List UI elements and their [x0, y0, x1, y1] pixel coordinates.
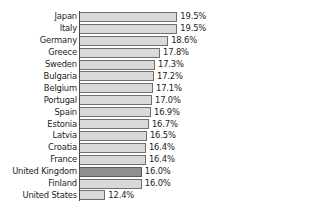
bar-greece: [80, 48, 160, 58]
value-label-italy: 19.5%: [180, 24, 206, 32]
value-label-finland: 16.0%: [145, 179, 171, 187]
bar-united-states: [80, 190, 105, 200]
value-label-estonia: 16.7%: [152, 120, 178, 128]
value-label-belgium: 17.1%: [156, 84, 182, 92]
bar-sweden: [80, 60, 155, 70]
bar-france: [80, 155, 146, 165]
category-label-belgium: Belgium: [0, 84, 77, 92]
bar-italy: [80, 24, 177, 34]
value-label-spain: 16.9%: [154, 108, 180, 116]
category-label-japan: Japan: [0, 12, 77, 20]
value-label-latvia: 16.5%: [150, 131, 176, 139]
value-label-portugal: 17.0%: [155, 96, 181, 104]
category-label-italy: Italy: [0, 24, 77, 32]
value-label-bulgaria: 17.2%: [157, 72, 183, 80]
value-label-greece: 17.8%: [163, 48, 189, 56]
value-label-united-states: 12.4%: [108, 191, 134, 199]
bar-japan: [80, 12, 177, 22]
bar-finland: [80, 179, 142, 189]
bar-spain: [80, 107, 151, 117]
value-label-japan: 19.5%: [180, 12, 206, 20]
category-label-spain: Spain: [0, 108, 77, 116]
bar-latvia: [80, 131, 147, 141]
category-label-united-states: United States: [0, 191, 77, 199]
bar-belgium: [80, 83, 153, 93]
category-label-estonia: Estonia: [0, 120, 77, 128]
category-label-germany: Germany: [0, 36, 77, 44]
category-label-portugal: Portugal: [0, 96, 77, 104]
category-label-finland: Finland: [0, 179, 77, 187]
value-label-croatia: 16.4%: [149, 143, 175, 151]
value-label-france: 16.4%: [149, 155, 175, 163]
category-label-croatia: Croatia: [0, 143, 77, 151]
bar-estonia: [80, 119, 149, 129]
category-label-france: France: [0, 155, 77, 163]
bar-chart: Japan19.5%Italy19.5%Germany18.6%Greece17…: [0, 0, 328, 209]
bar-croatia: [80, 143, 146, 153]
bar-portugal: [80, 95, 152, 105]
category-label-sweden: Sweden: [0, 60, 77, 68]
bar-germany: [80, 36, 168, 46]
value-label-sweden: 17.3%: [158, 60, 184, 68]
bar-bulgaria: [80, 71, 154, 81]
category-label-bulgaria: Bulgaria: [0, 72, 77, 80]
plot-area: Japan19.5%Italy19.5%Germany18.6%Greece17…: [0, 0, 328, 209]
bar-united-kingdom: [80, 167, 142, 177]
category-label-united-kingdom: United Kingdom: [0, 167, 77, 175]
category-label-latvia: Latvia: [0, 131, 77, 139]
value-label-united-kingdom: 16.0%: [145, 167, 171, 175]
value-label-germany: 18.6%: [171, 36, 197, 44]
category-label-greece: Greece: [0, 48, 77, 56]
